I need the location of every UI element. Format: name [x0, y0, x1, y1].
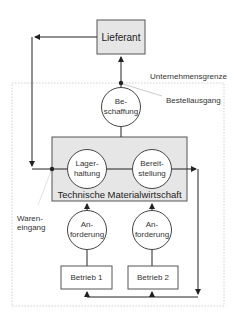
goods-in-label-1: Waren- — [17, 214, 43, 223]
request2-node: An-forderung — [132, 210, 172, 250]
request2-label-1: An- — [146, 220, 158, 229]
procurement-label-1: Be- — [115, 97, 127, 106]
request1-label-1: An- — [81, 220, 93, 229]
request2-label-2: forderung — [135, 230, 169, 239]
request1-node: An-forderung — [67, 210, 107, 250]
provision-label-2: stellung — [138, 169, 166, 178]
goods-in-label: Waren-eingang — [17, 214, 45, 232]
plant2-label: Betrieb 2 — [137, 273, 169, 282]
boundary-label: Unternehmensgrenze — [150, 72, 227, 81]
tmw-label: Technische Materialwirtschaft — [52, 189, 187, 200]
procurement-label-2: schaffung — [104, 107, 139, 116]
plant1-box: Betrieb 1 — [61, 266, 112, 289]
procurement-node: Be-schaffung — [101, 87, 141, 127]
order-out-label: Bestellausgang — [166, 96, 221, 105]
supplier-box: Lieferant — [97, 20, 145, 54]
plant2-box: Betrieb 2 — [128, 266, 178, 289]
supplier-label: Lieferant — [102, 32, 141, 43]
storage-label-2: haltung — [74, 169, 100, 178]
goods-in-label-2: eingang — [17, 223, 45, 232]
provision-node: Bereit-stellung — [132, 149, 172, 189]
storage-label-1: Lager- — [75, 159, 98, 168]
request1-label-2: forderung — [70, 230, 104, 239]
provision-label-1: Bereit- — [140, 159, 164, 168]
plant1-label: Betrieb 1 — [70, 273, 102, 282]
storage-node: Lager-haltung — [67, 149, 107, 189]
